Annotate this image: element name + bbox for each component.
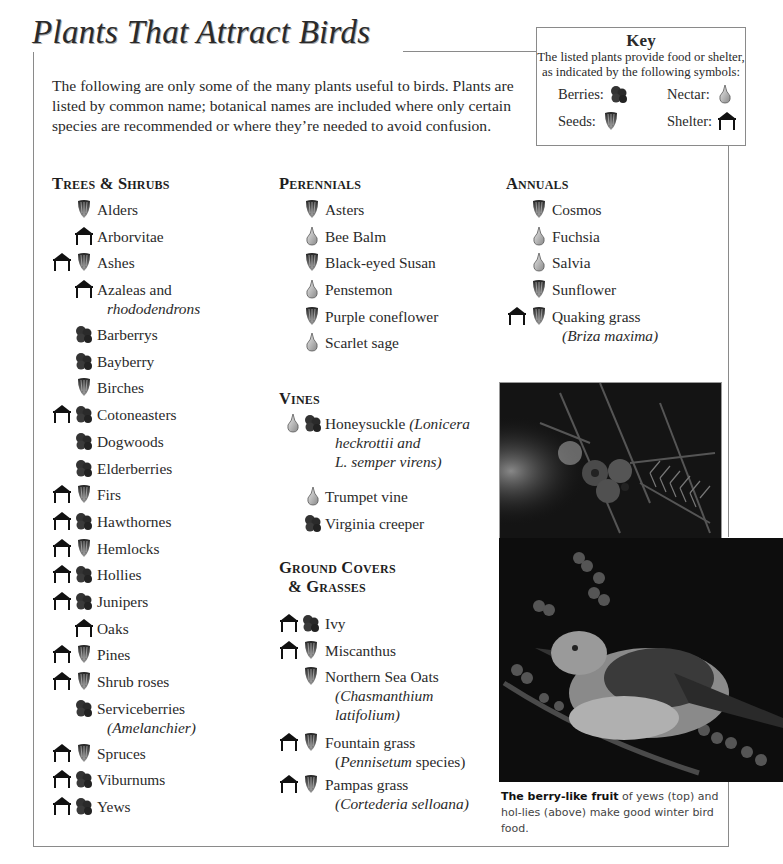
list-item: Yews: [52, 796, 170, 823]
list-item: Pampas grass (Cortederia selloana): [279, 774, 396, 816]
berries-icon: [74, 698, 94, 718]
berries-icon: [74, 324, 94, 344]
berries-icon: [303, 413, 323, 433]
list-item: Firs: [52, 484, 170, 511]
seeds-icon: [301, 732, 321, 752]
nectar-icon: [715, 84, 735, 104]
list-item: Virginia creeper: [279, 513, 320, 540]
list-item: Hollies: [52, 564, 170, 591]
list-item: Hemlocks: [52, 538, 170, 565]
list-item: Salvia: [506, 252, 569, 279]
shelter-icon: [52, 252, 72, 272]
botanical-name: latifolium): [325, 705, 439, 724]
plant-name: Bee Balm: [325, 228, 386, 245]
seeds-icon: [74, 252, 94, 272]
list-item: Honeysuckle (Lonicera heckrottii and L. …: [279, 413, 320, 486]
berries-icon: [74, 458, 94, 478]
section-heading: Ground Covers: [279, 558, 396, 577]
list-item: Alders: [52, 199, 170, 226]
key-item-shelter: Shelter:: [667, 111, 737, 131]
section-heading: Perennials: [279, 174, 361, 193]
berries-icon: [74, 511, 94, 531]
seeds-icon: [301, 640, 321, 660]
plant-name: Viburnums: [97, 771, 165, 788]
section-heading: Trees & Shrubs: [52, 174, 170, 193]
plant-name: Virginia creeper: [325, 514, 424, 533]
berries-icon: [74, 591, 94, 611]
section-trees-shrubs: Trees & Shrubs AldersArborvitaeAshesAzal…: [52, 174, 170, 823]
plant-name: Hawthornes: [97, 513, 171, 530]
plant-name: Arborvitae: [97, 228, 164, 245]
plant-name: Asters: [325, 201, 364, 218]
seeds-icon: [74, 743, 94, 763]
shelter-icon: [74, 279, 94, 299]
list-item: Arborvitae: [52, 226, 170, 253]
plant-name: Azaleas and: [97, 281, 172, 298]
seeds-icon: [301, 774, 321, 794]
nectar-icon: [283, 413, 303, 433]
list-item: Junipers: [52, 591, 170, 618]
key-item-seeds: Seeds:: [558, 111, 621, 131]
botanical-name: (Amelanchier): [97, 718, 196, 737]
key-item-nectar: Nectar:: [667, 84, 735, 104]
shelter-icon: [52, 591, 72, 611]
section-annuals: Annuals CosmosFuchsiaSalviaSunflowerQuak…: [506, 174, 569, 351]
shelter-icon: [52, 796, 72, 816]
seeds-icon: [74, 377, 94, 397]
plant-name: Fuchsia: [552, 228, 600, 245]
seeds-icon: [529, 279, 549, 299]
title-underline: [403, 51, 537, 52]
botanical-name: (Lonicera: [405, 415, 470, 432]
intro-paragraph: The following are only some of the many …: [52, 76, 532, 136]
berries-icon: [74, 404, 94, 424]
botanical-name: L. semper virens): [335, 453, 442, 470]
plant-name: Alders: [97, 201, 138, 218]
section-ground-covers: Ground Covers & Grasses Ivy Miscanthus N…: [279, 558, 396, 816]
plant-name: Oaks: [97, 620, 129, 637]
mockingbird-photo: [499, 538, 783, 782]
list-item: Shrub roses: [52, 671, 170, 698]
plant-name: Birches: [97, 379, 144, 396]
list-item: Bayberry: [52, 351, 170, 378]
annuals-list: CosmosFuchsiaSalviaSunflowerQuaking gras…: [506, 199, 569, 351]
list-item: Ivy: [279, 613, 396, 640]
list-item: Elderberries: [52, 458, 170, 485]
list-item: Azaleas andrhododendrons: [52, 279, 170, 324]
plant-name: Ivy: [325, 614, 346, 633]
seeds-icon: [302, 306, 322, 326]
shelter-icon: [279, 774, 299, 794]
shelter-icon: [74, 226, 94, 246]
shelter-icon: [52, 743, 72, 763]
list-item: Bee Balm: [279, 226, 361, 253]
key-item-berries: Berries:: [558, 84, 629, 104]
plant-name: Ashes: [97, 254, 135, 271]
list-item: Fuchsia: [506, 226, 569, 253]
list-item: Ashes: [52, 252, 170, 279]
plant-name: Elderberries: [97, 460, 172, 477]
botanical-name: heckrottii: [335, 434, 393, 451]
list-item: Sunflower: [506, 279, 569, 306]
list-item: Hawthornes: [52, 511, 170, 538]
shelter-icon: [52, 644, 72, 664]
plant-name: Bayberry: [97, 353, 154, 370]
list-item: Cosmos: [506, 199, 569, 226]
seeds-icon: [74, 671, 94, 691]
plant-name: Trumpet vine: [325, 487, 408, 506]
section-heading: & Grasses: [279, 577, 396, 596]
plant-name: Sunflower: [552, 281, 616, 298]
section-heading: Vines: [279, 389, 320, 408]
yew-berries-photo: [499, 382, 722, 544]
frame-right-border: [728, 145, 729, 537]
page-title: Plants That Attract Birds: [32, 14, 370, 51]
key-label-shelter: Shelter:: [667, 113, 712, 130]
shelter-icon: [52, 511, 72, 531]
plant-name-continued: species): [412, 753, 465, 770]
shelter-icon: [52, 538, 72, 558]
list-item: Cotoneasters: [52, 404, 170, 431]
plant-name: Pines: [97, 646, 130, 663]
mockingbird-photo-image: [499, 538, 783, 782]
caption-bold: The berry-like fruit: [501, 790, 618, 803]
plant-name: Cotoneasters: [97, 406, 177, 423]
key-legend: Key The listed plants provide food or sh…: [536, 27, 746, 146]
plant-name: Hemlocks: [97, 540, 159, 557]
